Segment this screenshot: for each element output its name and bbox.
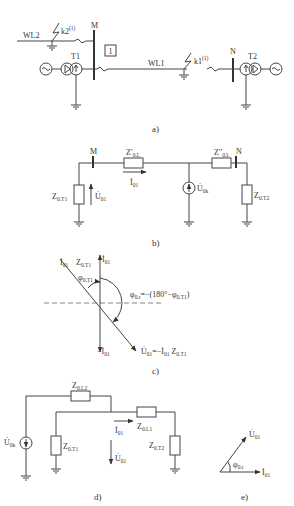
label-z0t1-d: Z0.T1 [63, 442, 78, 452]
angle-arc-phi-r [100, 278, 122, 322]
label-u0k-b: U̇0k [197, 183, 209, 194]
impedance-z0l1 [137, 407, 156, 417]
panel-d-equivalent-network: Z0.L2 Z0.L1 İ01 U̇0k Z0.T1 U̇01 Z0.T2 d) [4, 381, 180, 502]
impedance-z0l2 [71, 391, 90, 401]
impedance-z0t1 [74, 185, 84, 204]
label-wl2: WL2 [23, 31, 39, 40]
label-z0t1-i01-c: Z0.T1 [76, 258, 91, 268]
label-z0l1: Z0.L1 [137, 422, 152, 432]
label-z0t2-d: Z0.T2 [149, 441, 164, 451]
panel-a-single-line-diagram: WL2 k2(1) M 1 T1 WL1 [17, 21, 282, 134]
label-wl1: WL1 [148, 59, 164, 68]
label-n: N [230, 47, 236, 56]
impedance-z0l-dprime [212, 158, 231, 168]
label-u01-expression: U̇01=−İ01 Z0.T1 [141, 346, 187, 357]
label-phi-e: φ0.r [233, 460, 244, 470]
angle-arc-phi-e [228, 462, 230, 472]
label-phi-r-expression: φ0.r=−(180°−φ0.T1) [130, 290, 190, 300]
label-u01-d: U̇01 [115, 453, 127, 464]
fault-k1-lightning-icon [184, 53, 191, 69]
label-u0k-d: U̇0k [4, 437, 16, 448]
label-t1: T1 [71, 52, 80, 61]
phasor-u01 [60, 259, 136, 351]
breaker-icon [74, 39, 94, 43]
caption-b: b) [152, 238, 160, 248]
label-i01-top-c: İ01 [102, 255, 110, 265]
impedance-z0t2-d [170, 436, 180, 455]
label-n-b: N [236, 147, 242, 156]
label-i01-e: İ01 [262, 468, 270, 478]
label-k1: k1(1) [194, 55, 209, 66]
fault-k2-lightning-icon [52, 23, 59, 41]
label-i01-d: İ01 [115, 426, 123, 436]
label-protection: 1 [109, 47, 113, 56]
impedance-z0t2 [242, 185, 252, 204]
label-neg-i01: −İ01 [97, 347, 110, 357]
caption-e: e) [241, 492, 248, 502]
label-z0l-prime: Z′0.L [126, 148, 141, 158]
label-i01-b: İ01 [130, 178, 138, 188]
label-z0l2: Z0.L2 [72, 381, 87, 391]
caption-a: a) [152, 124, 159, 134]
label-m: M [91, 21, 98, 30]
label-i01-c: İ01 [60, 258, 68, 268]
label-z0l-dprime: Z″0.L [214, 148, 230, 158]
impedance-z0t1-d [51, 436, 61, 455]
line-wl1 [94, 67, 187, 71]
label-z0t1-b: Z0.T1 [52, 192, 67, 202]
label-t2: T2 [248, 52, 257, 61]
panel-e-phasor-diagram: U̇01 İ01 φ0.r e) [220, 429, 270, 502]
impedance-z0l-prime [124, 158, 143, 168]
panel-b-zero-sequence-network: M Z′0.L İ01 Z″0.L N Z0.T1 U̇01 U̇0k Z0.T… [52, 147, 269, 248]
transformer-t2-winding-2 [249, 63, 261, 75]
caption-d: d) [94, 492, 102, 502]
diagram-canvas: WL2 k2(1) M 1 T1 WL1 [0, 0, 294, 506]
label-phi-t1: φ0.T1 [78, 273, 93, 283]
label-m-b: M [90, 147, 97, 156]
label-u01-b: U̇01 [95, 191, 107, 202]
label-k2: k2(1) [61, 25, 76, 36]
label-z0t2-b: Z0.T2 [254, 191, 269, 201]
label-u01-e: U̇01 [249, 429, 261, 440]
caption-c: c) [152, 366, 159, 376]
panel-c-phasor-diagram: İ01 Z0.T1 İ01 φ0.T1 φ0.r=−(180°−φ0.T1) −… [44, 255, 190, 376]
